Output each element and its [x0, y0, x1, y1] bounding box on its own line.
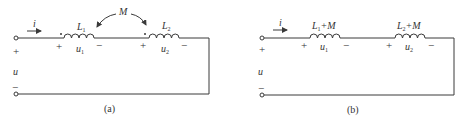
polarity-dot-l1	[60, 33, 62, 35]
circuit-a: i L1 + u1 − M L2 + u2 − + u − (a)	[12, 6, 209, 115]
inductor-l2-coil	[149, 34, 179, 38]
u1-label: u1	[76, 43, 84, 55]
source-minus: −	[258, 82, 264, 94]
u2-label: u2	[405, 41, 413, 53]
terminal-top	[260, 36, 264, 40]
terminal-top	[14, 36, 18, 40]
caption-a: (a)	[104, 103, 115, 115]
inductor-l1-coil	[64, 34, 94, 38]
inductor-l2-label: L2	[161, 20, 171, 32]
mutual-arrow-right-icon	[131, 14, 146, 25]
l2-minus: −	[428, 39, 434, 51]
inductor-l2m-label: L2+M	[396, 20, 421, 32]
source-plus: +	[13, 45, 19, 57]
source-voltage-label: u	[258, 66, 263, 77]
u1-label: u1	[320, 41, 328, 53]
l1-minus: −	[96, 39, 102, 51]
inductor-l1-label: L1	[76, 21, 86, 33]
source-minus: −	[12, 81, 18, 93]
current-label: i	[279, 17, 282, 28]
circuit-b: i L1+M + u1 − L2+M + u2 − + u − (b)	[258, 17, 454, 116]
l1-plus: +	[56, 40, 62, 52]
mutual-label: M	[118, 6, 128, 17]
source-plus: +	[259, 43, 265, 55]
polarity-dot-l2	[144, 33, 146, 35]
source-voltage-label: u	[13, 66, 18, 77]
l1-minus: −	[343, 39, 349, 51]
caption-b: (b)	[347, 104, 359, 116]
l2-plus: +	[140, 39, 146, 51]
l1-plus: +	[301, 39, 307, 51]
mutual-arrow-left-icon	[97, 14, 116, 27]
inductor-l2m-coil	[395, 34, 425, 38]
inductor-l1m-label: L1+M	[311, 20, 336, 32]
l2-minus: −	[181, 39, 187, 51]
u2-label: u2	[161, 43, 169, 55]
inductor-l1m-coil	[310, 34, 340, 38]
current-label: i	[33, 18, 36, 29]
l2-plus: +	[386, 39, 392, 51]
circuit-figure: i L1 + u1 − M L2 + u2 − + u − (a) i	[0, 0, 464, 122]
